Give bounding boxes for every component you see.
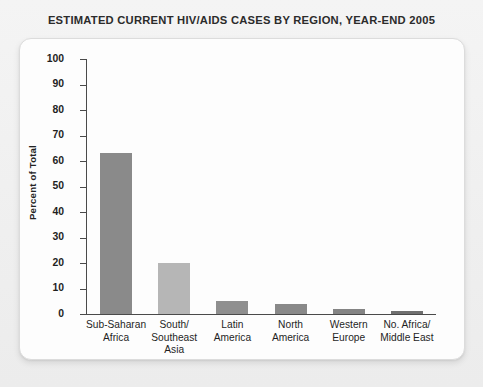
y-tick-label-80: 80 (34, 105, 64, 115)
y-tick-label-20: 20 (34, 258, 64, 268)
y-tick-label-10: 10 (34, 283, 64, 293)
y-tick-label-30: 30 (34, 232, 64, 242)
y-tick-mark-80 (80, 110, 86, 111)
y-axis-tick-labels: 1009080706050403020100 (28, 39, 64, 361)
x-tick-label-line: No. Africa/ (372, 319, 442, 332)
x-tick-label-line: Asia (139, 344, 209, 357)
y-tick-label-0: 0 (34, 309, 64, 319)
bar-0 (100, 153, 132, 314)
bar-4 (333, 309, 365, 314)
y-tick-mark-30 (80, 238, 86, 239)
y-tick-mark-90 (80, 85, 86, 86)
y-tick-mark-10 (80, 289, 86, 290)
bar-series (87, 59, 436, 314)
y-tick-mark-70 (80, 136, 86, 137)
y-tick-mark-60 (80, 161, 86, 162)
y-tick-mark-40 (80, 212, 86, 213)
y-tick-mark-20 (80, 263, 86, 264)
y-tick-label-70: 70 (34, 130, 64, 140)
x-axis-line (86, 314, 436, 315)
y-tick-label-90: 90 (34, 79, 64, 89)
bar-1 (158, 263, 190, 314)
page-root: ESTIMATED CURRENT HIV/AIDS CASES BY REGI… (0, 0, 483, 387)
x-axis-tick-labels: Sub-SaharanAfricaSouth/SoutheastAsiaLati… (87, 319, 436, 361)
y-tick-mark-50 (80, 187, 86, 188)
y-tick-mark-0 (80, 314, 86, 315)
y-tick-label-100: 100 (34, 54, 64, 64)
bar-2 (216, 301, 248, 314)
y-tick-label-60: 60 (34, 156, 64, 166)
bar-5 (391, 311, 423, 314)
y-tick-label-50: 50 (34, 181, 64, 191)
bar-3 (275, 304, 307, 314)
plot-area: Percent of Total 1009080706050403020100 … (20, 39, 466, 361)
chart-card: Percent of Total 1009080706050403020100 … (19, 38, 465, 360)
y-tick-label-40: 40 (34, 207, 64, 217)
x-tick-label-line: Middle East (372, 332, 442, 345)
y-tick-mark-100 (80, 59, 86, 60)
x-tick-label-5: No. Africa/Middle East (372, 319, 442, 344)
chart-title: ESTIMATED CURRENT HIV/AIDS CASES BY REGI… (0, 14, 483, 26)
